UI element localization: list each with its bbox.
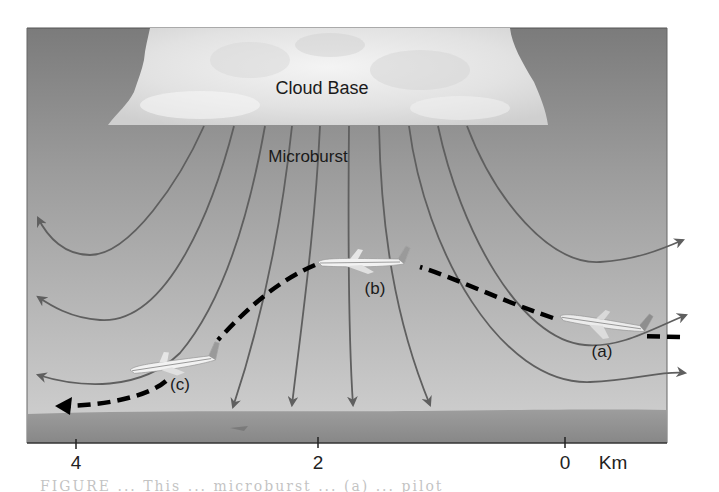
- cloud-base-label: Cloud Base: [275, 78, 368, 98]
- axis-unit-label: Km: [599, 452, 628, 473]
- plane-a-label: (a): [592, 342, 613, 361]
- cloud: [108, 28, 548, 125]
- microburst-label: Microburst: [268, 147, 348, 166]
- axis-tick-4: 4: [71, 452, 82, 473]
- figure-caption-fragment: FIGURE ... This ... microburst ... (a) .…: [40, 478, 719, 492]
- axis-tick-2: 2: [313, 452, 324, 473]
- plane-c-label: (c): [170, 375, 190, 394]
- axis-tick-0: 0: [560, 452, 571, 473]
- ground: [27, 410, 667, 443]
- distance-axis: 4 2 0 Km: [27, 437, 667, 473]
- plane-b-label: (b): [365, 279, 386, 298]
